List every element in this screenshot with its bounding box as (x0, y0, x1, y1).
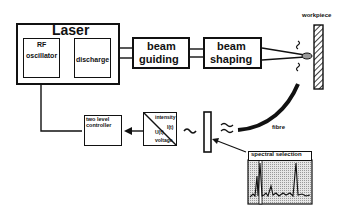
emission-wave-icon (297, 41, 300, 49)
spectral-selection-label: spectral selection (251, 151, 302, 157)
light-wave-icon (221, 124, 233, 127)
laser-title: Laser (52, 22, 89, 38)
arrow-left-icon (124, 127, 132, 135)
tilde-icon (184, 129, 196, 133)
beam-shaping-label-1: beam (217, 40, 246, 52)
rf-label: RF (37, 41, 46, 48)
fibre-icon (238, 84, 298, 130)
oscillator-label: oscillator (26, 52, 57, 59)
fibre-label: fibre (272, 124, 285, 130)
converter-intensity: intensity (155, 114, 176, 120)
converter-it: I(t) (167, 124, 173, 130)
workpiece-label: workpiece (302, 12, 331, 18)
controller-label-2: controller (86, 122, 111, 128)
converter-voltage: voltage (155, 137, 173, 143)
beam-shaping-label-2: shaping (210, 53, 252, 65)
converter-ut: U(t) (155, 129, 164, 135)
beam-guiding-label-1: beam (147, 40, 176, 52)
discharge-label: discharge (76, 56, 109, 63)
optical-filter-icon (204, 112, 211, 152)
beam-guiding-label-2: guiding (139, 53, 179, 65)
workpiece-icon (314, 25, 323, 89)
feedback-line (41, 82, 82, 131)
plasma-spot-icon (302, 53, 312, 59)
